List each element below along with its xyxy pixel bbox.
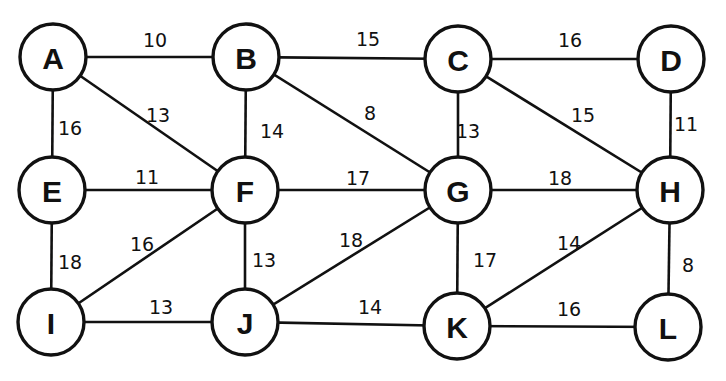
node-label: K xyxy=(446,311,468,344)
edge-weight-j-k: 14 xyxy=(358,296,382,318)
node-k: K xyxy=(424,293,490,359)
node-label: E xyxy=(42,175,62,208)
edge-weight-b-f: 14 xyxy=(260,120,284,142)
node-b: B xyxy=(213,24,279,90)
edge-weight-c-d: 16 xyxy=(558,29,582,51)
edge-weight-c-g: 13 xyxy=(456,120,480,142)
edge-weight-c-h: 15 xyxy=(571,104,595,126)
edge-weight-h-k: 14 xyxy=(557,232,581,254)
edge-weight-e-i: 18 xyxy=(58,251,82,273)
node-label: D xyxy=(660,44,682,77)
node-label: B xyxy=(235,42,257,75)
node-d: D xyxy=(638,26,704,92)
edge-weight-g-k: 17 xyxy=(473,249,497,271)
edge-weights-layer: 1015161613148131511111718181613181714813… xyxy=(58,28,698,320)
edge-weight-a-b: 10 xyxy=(143,29,167,51)
node-label: G xyxy=(446,175,469,208)
node-h: H xyxy=(637,157,703,223)
edge-weight-g-j: 18 xyxy=(339,229,363,251)
node-i: I xyxy=(18,289,84,355)
edge-weight-f-j: 13 xyxy=(252,249,276,271)
node-c: C xyxy=(425,26,491,92)
node-g: G xyxy=(425,157,491,223)
edge-weight-a-e: 16 xyxy=(58,117,82,139)
node-label: H xyxy=(659,175,681,208)
edge-weight-f-i: 16 xyxy=(130,233,154,255)
edges-layer xyxy=(51,57,671,327)
edge-g-j xyxy=(245,190,458,322)
edge-weight-k-l: 16 xyxy=(557,298,581,320)
weighted-graph-diagram: 1015161613148131511111718181613181714813… xyxy=(0,0,726,381)
edge-weight-d-h: 11 xyxy=(674,113,698,135)
node-label: F xyxy=(236,175,254,208)
node-l: L xyxy=(635,294,701,360)
node-j: J xyxy=(212,289,278,355)
edge-weight-i-j: 13 xyxy=(149,296,173,318)
edge-weight-h-l: 8 xyxy=(682,254,694,276)
node-label: C xyxy=(447,44,469,77)
node-label: L xyxy=(659,312,677,345)
edge-weight-b-g: 8 xyxy=(364,102,376,124)
edge-weight-g-h: 18 xyxy=(548,167,572,189)
edge-weight-e-f: 11 xyxy=(135,166,159,188)
node-label: I xyxy=(47,307,55,340)
edge-weight-a-f: 13 xyxy=(146,104,170,126)
node-a: A xyxy=(20,24,86,90)
node-label: J xyxy=(237,307,254,340)
edge-weight-f-g: 17 xyxy=(346,167,370,189)
node-e: E xyxy=(19,157,85,223)
node-f: F xyxy=(212,157,278,223)
node-label: A xyxy=(42,42,64,75)
edge-weight-b-c: 15 xyxy=(356,28,380,50)
